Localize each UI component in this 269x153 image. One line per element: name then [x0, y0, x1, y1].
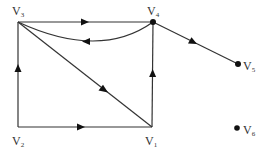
- directed-graph: [0, 0, 269, 153]
- node-v5-dot: [235, 61, 241, 67]
- label-subscript: 3: [21, 11, 25, 19]
- node-label-v4: V4: [147, 5, 159, 19]
- node-label-v1: V1: [145, 135, 157, 149]
- arrow-left-icon: [82, 38, 90, 45]
- node-v6-dot: [234, 125, 240, 131]
- label-letter: V: [147, 4, 156, 18]
- edge-v2-to-v1: [18, 124, 152, 131]
- label-letter: V: [145, 134, 154, 148]
- label-subscript: 2: [21, 141, 25, 149]
- edge-v1-to-v4: [149, 22, 156, 127]
- node-v4-dot: [150, 19, 156, 25]
- edge-v4-to-v3: [18, 22, 153, 45]
- label-letter: V: [243, 123, 252, 137]
- node-label-v5: V5: [243, 60, 255, 74]
- label-letter: V: [12, 134, 21, 148]
- arrow-up-icon: [149, 69, 156, 77]
- label-subscript: 4: [156, 11, 160, 19]
- node-label-v6: V6: [243, 124, 255, 138]
- label-subscript: 5: [252, 66, 256, 74]
- edge-v3-to-v4: [18, 19, 153, 26]
- edge-v4-to-v5: [153, 22, 238, 64]
- label-subscript: 6: [252, 130, 256, 138]
- edge-v3-to-v1: [18, 22, 152, 127]
- edge-v2-to-v3: [15, 22, 22, 127]
- arrow-up-icon: [15, 64, 22, 72]
- label-letter: V: [243, 59, 252, 73]
- node-label-v3: V3: [12, 5, 24, 19]
- arrow-right-icon: [81, 19, 89, 26]
- label-subscript: 1: [154, 141, 158, 149]
- arrow-right-icon: [77, 124, 85, 131]
- node-label-v2: V2: [12, 135, 24, 149]
- label-letter: V: [12, 4, 21, 18]
